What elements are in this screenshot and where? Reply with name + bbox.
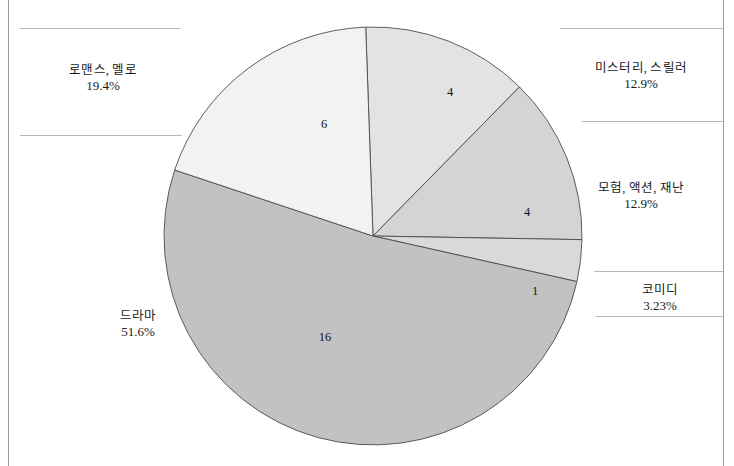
callout-comedy-category: 코미디: [596, 282, 724, 298]
callout-mystery-category: 미스터리, 스릴러: [558, 60, 724, 76]
callout-romance: 로맨스, 멜로 19.4%: [20, 62, 186, 95]
callout-adventure-percent: 12.9%: [558, 196, 724, 213]
callout-romance-percent: 19.4%: [20, 78, 186, 95]
slice-value-adventure: 4: [517, 205, 537, 220]
callout-adventure-category: 모험, 액션, 재난: [558, 180, 724, 196]
callout-drama-percent: 51.6%: [78, 324, 198, 341]
callout-adventure: 모험, 액션, 재난 12.9%: [558, 180, 724, 213]
callout-mystery: 미스터리, 스릴러 12.9%: [558, 60, 724, 93]
slice-value-comedy: 1: [525, 284, 545, 299]
callout-drama: 드라마 51.6%: [78, 308, 198, 341]
chart-canvas: 로맨스, 멜로 19.4% 미스터리, 스릴러 12.9% 모험, 액션, 재난…: [0, 0, 734, 466]
callout-mystery-percent: 12.9%: [558, 76, 724, 93]
callout-romance-category: 로맨스, 멜로: [20, 62, 186, 78]
callout-drama-category: 드라마: [78, 308, 198, 324]
callout-comedy-percent: 3.23%: [596, 298, 724, 315]
slice-value-drama: 16: [313, 330, 337, 345]
slice-value-mystery: 4: [440, 85, 460, 100]
slice-value-romance: 6: [314, 117, 334, 132]
callout-comedy: 코미디 3.23%: [596, 282, 724, 315]
